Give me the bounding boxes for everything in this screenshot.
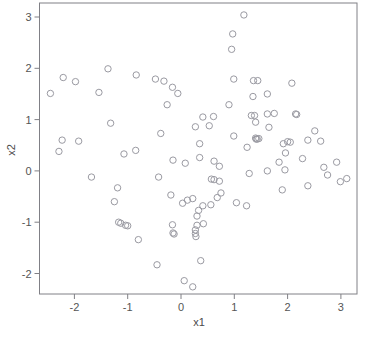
y-tick-label: -2 (22, 268, 32, 280)
x-axis-title: x1 (193, 316, 205, 328)
y-tick-label: 3 (25, 11, 31, 23)
plot-canvas (0, 0, 367, 342)
y-tick-label: -1 (22, 216, 32, 228)
figure-background (0, 0, 367, 342)
x-tick-label: -1 (123, 301, 133, 313)
x-tick-label: 1 (231, 301, 237, 313)
x-tick-label: -2 (70, 301, 80, 313)
x-tick-label: 3 (338, 301, 344, 313)
y-tick-label: 2 (25, 62, 31, 74)
y-tick-label: 0 (25, 165, 31, 177)
scatter-plot-figure: -2-10123-2-10123 x1 x2 (0, 0, 367, 342)
y-axis-title: x2 (5, 144, 17, 156)
y-tick-label: 1 (25, 114, 31, 126)
x-tick-label: 2 (285, 301, 291, 313)
x-tick-label: 0 (178, 301, 184, 313)
